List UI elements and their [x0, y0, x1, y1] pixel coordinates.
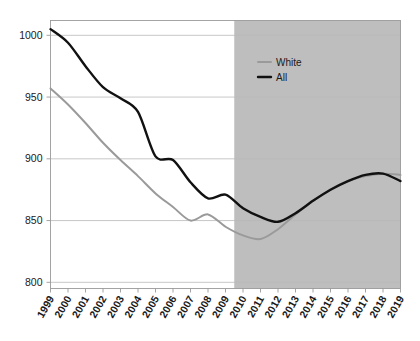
- y-tick-label: 900: [25, 152, 43, 164]
- y-tick-label: 1000: [19, 29, 43, 41]
- y-tick-label: 950: [25, 91, 43, 103]
- shaded-region: [234, 21, 400, 289]
- chart-canvas: 8008509009501000 19992000200120022003200…: [0, 0, 420, 341]
- line-chart: 8008509009501000 19992000200120022003200…: [0, 0, 420, 341]
- y-tick-label: 800: [25, 276, 43, 288]
- y-tick-label: 850: [25, 214, 43, 226]
- shaded-band: [234, 21, 400, 289]
- legend-label-white: White: [276, 57, 302, 68]
- legend-label-all: All: [276, 72, 287, 83]
